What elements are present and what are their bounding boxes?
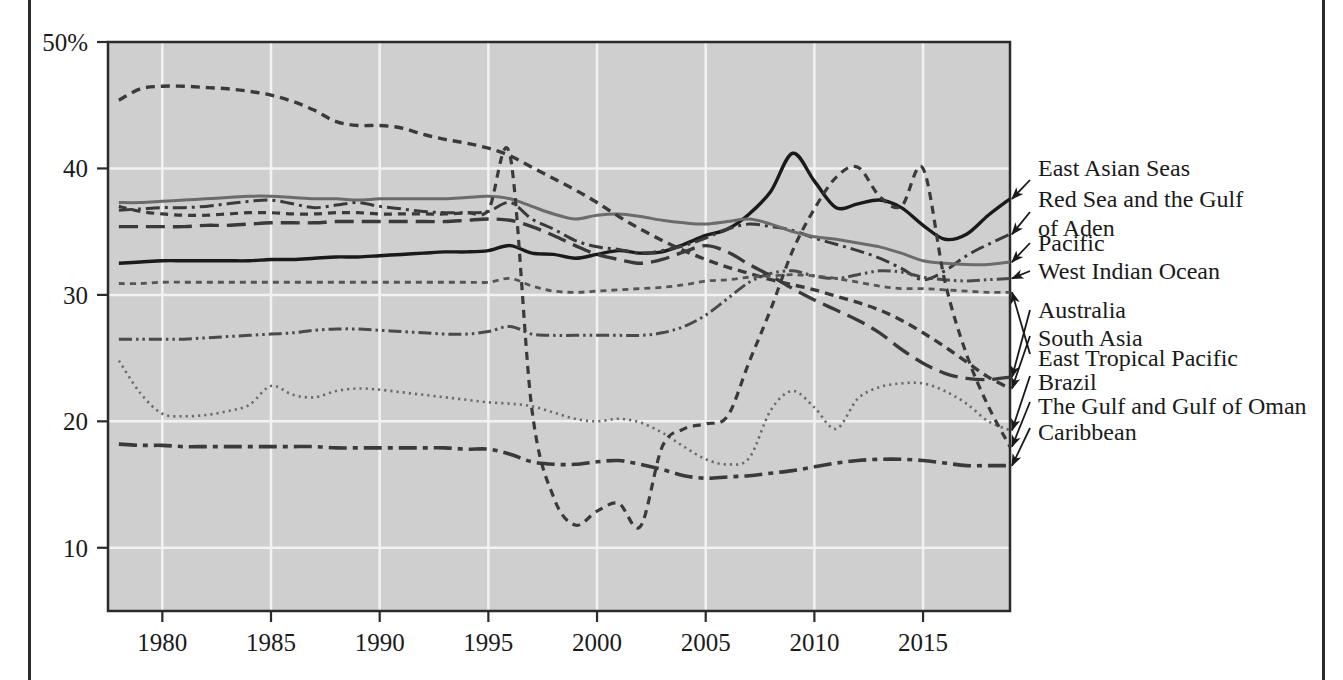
xtick-label-1995: 1995 — [463, 629, 513, 656]
leader-arrow-red-sea-and-the-gulf-of-aden — [1012, 212, 1030, 234]
xtick-label-1985: 1985 — [246, 629, 296, 656]
legend-labels: East Asian SeasRed Sea and the Gulfof Ad… — [1038, 155, 1307, 445]
ytick-label-20: 20 — [63, 408, 88, 435]
leader-arrow-west-indian-ocean — [1012, 271, 1030, 278]
legend-label-east-asian-seas: East Asian Seas — [1038, 155, 1190, 181]
legend-label-west-indian-ocean: West Indian Ocean — [1038, 258, 1220, 284]
ytick-label-30: 30 — [63, 282, 88, 309]
legend-label-pacific: Pacific — [1038, 230, 1105, 256]
legend-leader-lines — [1012, 180, 1030, 466]
leader-arrow-caribbean — [1012, 428, 1030, 466]
line-chart: 50%40302010 1980198519901995200020052010… — [0, 0, 1343, 680]
y-tick-labels: 50%40302010 — [42, 29, 88, 562]
xtick-label-2010: 2010 — [789, 629, 839, 656]
xtick-label-2000: 2000 — [572, 629, 622, 656]
x-tick-marks — [162, 611, 923, 622]
legend-label-brazil: Brazil — [1038, 369, 1097, 395]
y-tick-marks — [97, 42, 108, 548]
legend-label-east-tropical-pacific: East Tropical Pacific — [1038, 345, 1238, 371]
ytick-label-40: 40 — [63, 155, 88, 182]
xtick-label-1980: 1980 — [137, 629, 187, 656]
leader-arrow-east-asian-seas — [1012, 180, 1030, 199]
leader-arrow-pacific — [1012, 243, 1030, 262]
legend-label-the-gulf-and-gulf-of-oman: The Gulf and Gulf of Oman — [1038, 393, 1307, 419]
xtick-label-2015: 2015 — [898, 629, 948, 656]
xtick-label-1990: 1990 — [355, 629, 405, 656]
ytick-label-10: 10 — [63, 535, 88, 562]
ytick-label-50: 50% — [42, 29, 88, 56]
legend-label-australia: Australia — [1038, 297, 1126, 323]
legend-label-caribbean: Caribbean — [1038, 419, 1137, 445]
x-tick-labels: 19801985199019952000200520102015 — [137, 629, 948, 656]
figure-container: 50%40302010 1980198519901995200020052010… — [0, 0, 1343, 680]
legend-label-red-sea-and-the-gulf-of-aden: Red Sea and the Gulf — [1038, 186, 1243, 212]
xtick-label-2005: 2005 — [681, 629, 731, 656]
plot-background — [108, 42, 1010, 611]
